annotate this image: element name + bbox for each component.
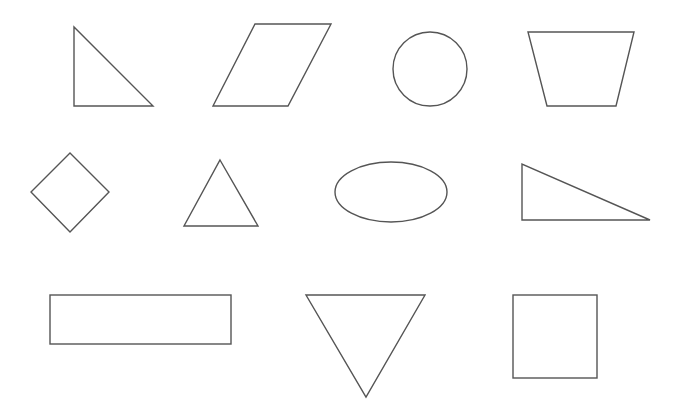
trapezoid	[528, 32, 634, 106]
diamond	[31, 153, 109, 232]
shapes-canvas	[0, 0, 681, 404]
circle	[393, 32, 467, 106]
inverted-triangle	[306, 295, 425, 397]
ellipse	[335, 162, 447, 222]
square	[513, 295, 597, 378]
equilateral-triangle	[184, 160, 258, 226]
rectangle	[50, 295, 231, 344]
wide-right-triangle	[522, 164, 650, 220]
parallelogram	[213, 24, 331, 106]
right-triangle	[74, 27, 153, 106]
